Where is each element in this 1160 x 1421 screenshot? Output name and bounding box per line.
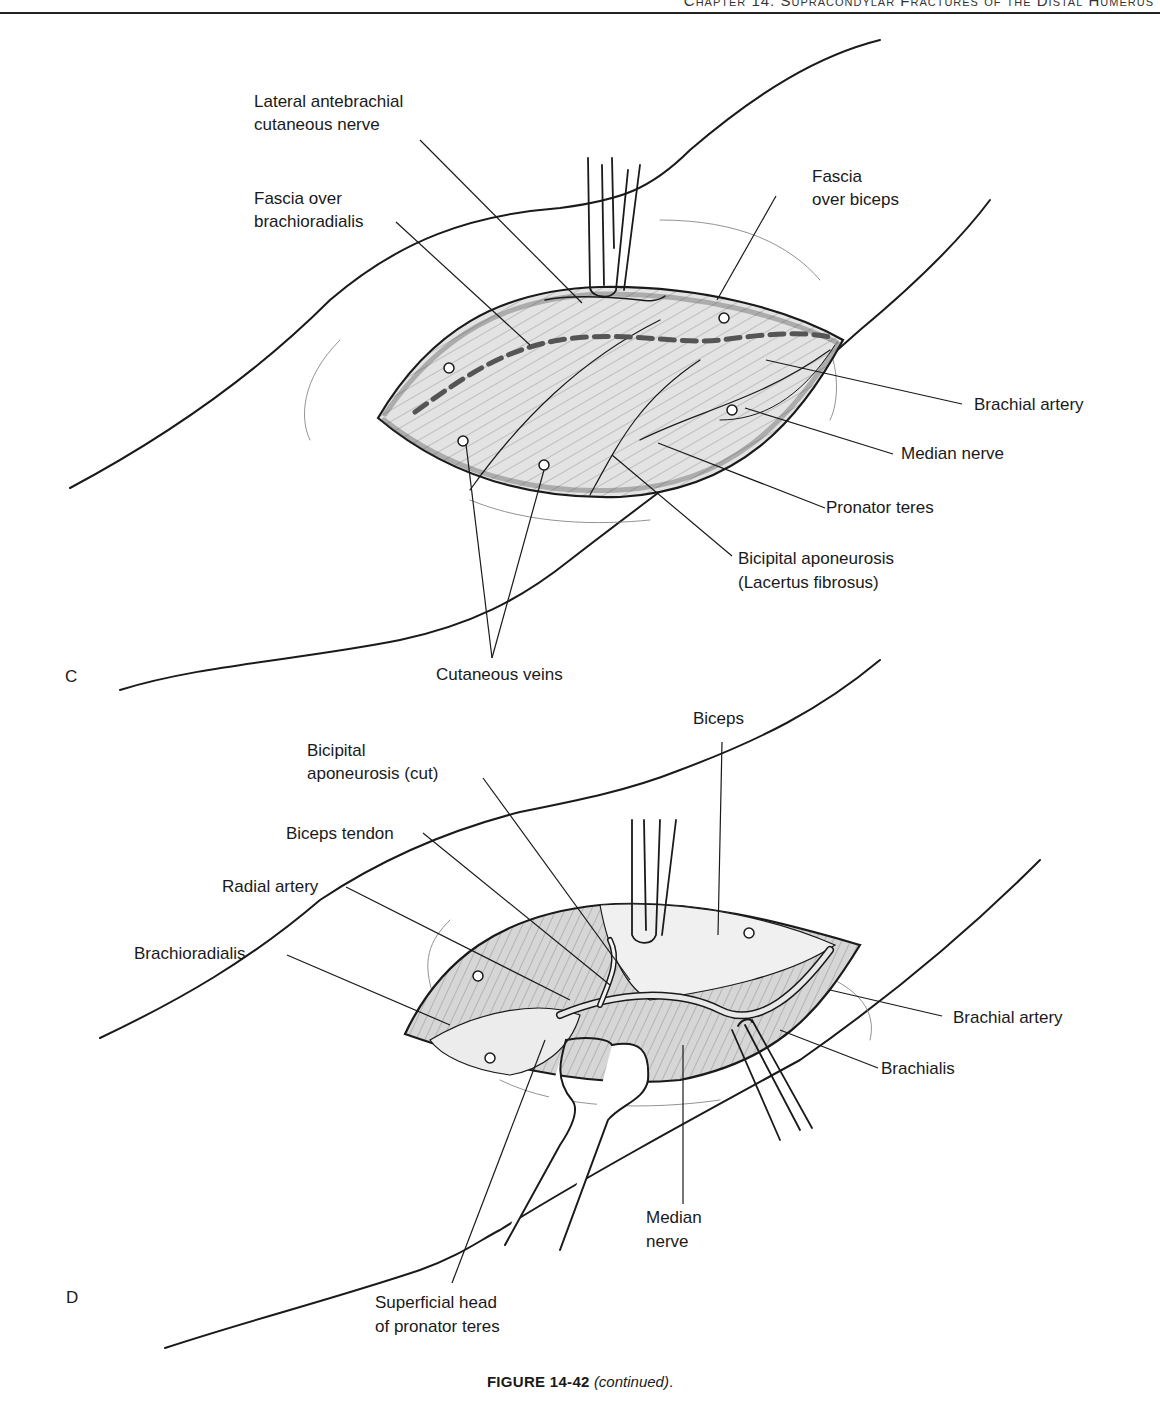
- label-median-nerve-d-line2: nerve: [646, 1231, 689, 1252]
- label-cutaneous-veins: Cutaneous veins: [436, 664, 563, 685]
- retractor-c: [588, 158, 640, 297]
- label-median-nerve-c: Median nerve: [901, 443, 1004, 464]
- surgical-illustration: [0, 0, 1160, 1421]
- label-bicipital-aponeurosis-line1: Bicipital aponeurosis: [738, 548, 894, 569]
- label-superficial-head-line1: Superficial head: [375, 1292, 497, 1313]
- label-brachial-artery-d: Brachial artery: [953, 1007, 1063, 1028]
- label-biceps-tendon: Biceps tendon: [286, 823, 394, 844]
- label-fascia-brachioradialis-line1: Fascia over: [254, 188, 342, 209]
- label-fascia-biceps-line1: Fascia: [812, 166, 862, 187]
- label-brachialis: Brachialis: [881, 1058, 955, 1079]
- label-brachioradialis: Brachioradialis: [134, 943, 246, 964]
- label-bicipital-cut-line1: Bicipital: [307, 740, 366, 761]
- label-median-nerve-d-line1: Median: [646, 1207, 702, 1228]
- label-brachial-artery-c: Brachial artery: [974, 394, 1084, 415]
- label-fascia-brachioradialis-line2: brachioradialis: [254, 211, 364, 232]
- panel-letter-c: C: [65, 667, 77, 687]
- label-lateral-antebrachial-line1: Lateral antebrachial: [254, 91, 403, 112]
- label-lateral-antebrachial-line2: cutaneous nerve: [254, 114, 380, 135]
- label-pronator-teres: Pronator teres: [826, 497, 934, 518]
- figure-caption-end: .: [669, 1373, 673, 1390]
- label-fascia-biceps-line2: over biceps: [812, 189, 899, 210]
- figure-note: (continued): [594, 1373, 669, 1390]
- label-superficial-head-line2: of pronator teres: [375, 1316, 500, 1337]
- label-bicipital-cut-line2: aponeurosis (cut): [307, 763, 438, 784]
- figure-number: FIGURE 14-42: [487, 1373, 590, 1390]
- label-bicipital-aponeurosis-line2: (Lacertus fibrosus): [738, 572, 879, 593]
- label-radial-artery: Radial artery: [222, 876, 318, 897]
- figure-caption: FIGURE 14-42 (continued).: [0, 1373, 1160, 1390]
- panel-letter-d: D: [66, 1288, 78, 1308]
- panel-d-drawing: [100, 660, 1040, 1348]
- label-biceps: Biceps: [693, 708, 744, 729]
